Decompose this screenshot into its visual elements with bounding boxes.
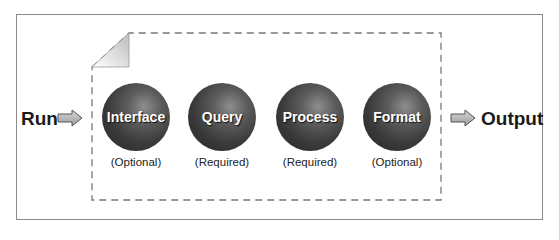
stage-requirement: (Required)	[195, 156, 249, 168]
stage-query-ball: Query	[188, 83, 256, 151]
stage-interface-ball: Interface	[102, 83, 170, 151]
stage-name: Query	[202, 109, 242, 125]
right-arrow-icon	[58, 110, 82, 126]
stage-process-ball: Process	[276, 83, 344, 151]
stage-name: Interface	[107, 109, 165, 125]
right-arrow-icon	[451, 110, 475, 126]
input-label: Run	[21, 109, 58, 128]
stage-requirement: (Optional)	[372, 156, 423, 168]
output-label: Output	[481, 109, 543, 128]
stage-name: Process	[283, 109, 337, 125]
stage-name: Format	[373, 109, 420, 125]
stage-requirement: (Required)	[283, 156, 337, 168]
stage-requirement: (Optional)	[111, 156, 162, 168]
stage-format-ball: Format	[363, 83, 431, 151]
